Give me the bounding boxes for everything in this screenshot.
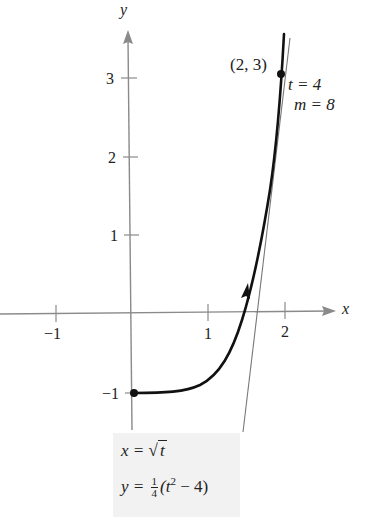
x-axis: [0, 311, 330, 314]
x-axis-label: x: [342, 301, 349, 317]
frac-denominator: 4: [151, 488, 159, 499]
y-tick-label: 2: [108, 150, 116, 166]
y-equation: y = 14(t2 − 4): [121, 475, 208, 499]
y-axis-label: y: [120, 2, 127, 18]
slope-label: m = 8: [294, 96, 335, 113]
y-eq-close: − 4): [176, 477, 208, 496]
sqrt-symbol: √: [149, 441, 158, 460]
parametric-graph: y x −1 1 2 3 2 1 −1 (2, 3) t = 4 m = 8 x…: [0, 0, 382, 528]
point-label: (2, 3): [230, 56, 267, 73]
start-point: [130, 389, 138, 397]
y-eq-open: (t: [160, 477, 170, 496]
x-eq-lhs: x =: [121, 441, 149, 460]
tangent-line: [243, 38, 290, 432]
t-value-label: t = 4: [288, 76, 321, 93]
y-tick-label: −1: [102, 386, 119, 402]
x-tick-label: −1: [44, 326, 61, 342]
y-eq-lhs: y =: [121, 477, 149, 496]
y-tick-label: 3: [106, 71, 114, 87]
x-axis-arrow-icon: [322, 306, 336, 316]
equations-box: x = √t y = 14(t2 − 4): [113, 433, 240, 517]
x-tick-label: 2: [281, 324, 289, 340]
y-axis-arrow-icon: [123, 30, 133, 44]
fraction: 14: [151, 476, 159, 499]
y-tick-label: 1: [110, 228, 118, 244]
tangent-point: [277, 70, 285, 78]
direction-arrow-icon: [241, 283, 250, 299]
x-tick-label: 1: [204, 326, 212, 342]
x-eq-rhs: t: [158, 440, 167, 460]
y-axis: [128, 38, 132, 430]
x-equation: x = √t: [121, 441, 167, 461]
